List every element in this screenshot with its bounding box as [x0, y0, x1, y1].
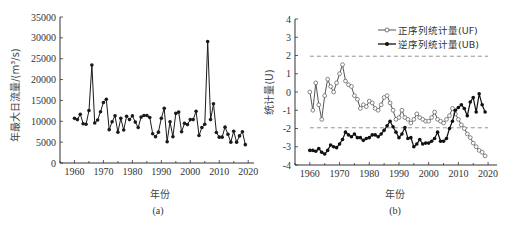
data-point	[203, 122, 207, 126]
data-point	[209, 118, 213, 122]
data-point	[116, 130, 120, 134]
data-point	[329, 85, 333, 89]
data-point	[359, 136, 363, 140]
data-point	[477, 92, 481, 96]
legend-item-uf: 正序列统计量(UF)	[378, 25, 478, 36]
open-circle-icon	[385, 28, 389, 32]
data-point	[235, 140, 239, 144]
data-point	[332, 90, 336, 94]
data-point	[379, 132, 383, 136]
data-point	[397, 136, 401, 140]
data-point	[483, 110, 487, 114]
x-tick-label: 2020	[238, 166, 258, 177]
data-point	[459, 123, 463, 127]
data-point	[177, 110, 181, 114]
y-tick-label: -1	[283, 105, 291, 116]
data-point	[409, 136, 413, 140]
x-tick-label: 2000	[180, 166, 200, 177]
x-axis-label-b: 年份	[385, 188, 405, 200]
data-point	[136, 126, 140, 130]
data-point	[122, 128, 126, 132]
data-point	[400, 132, 404, 136]
x-tick-label: 2020	[478, 168, 498, 179]
data-point	[344, 79, 348, 83]
legend-item-ub: 逆序列统计量(UB)	[378, 39, 479, 50]
data-point	[460, 103, 464, 107]
data-point	[338, 142, 342, 146]
y-tick-label: 20000	[31, 74, 56, 85]
data-point	[160, 117, 164, 121]
x-axis-label-a: 年份	[150, 188, 170, 200]
data-point	[341, 138, 345, 142]
y-tick-label: 4	[286, 14, 291, 25]
x-tick-label: 1980	[122, 166, 142, 177]
data-point	[367, 136, 371, 140]
series-line-ub	[310, 94, 485, 154]
data-point	[326, 149, 330, 153]
data-point	[96, 118, 100, 122]
data-point	[415, 142, 419, 146]
data-point	[385, 124, 389, 128]
data-point	[241, 130, 245, 134]
data-point	[379, 103, 383, 107]
data-point	[385, 94, 389, 98]
data-point	[480, 150, 484, 154]
y-tick-label: 1	[286, 68, 291, 79]
data-point	[376, 135, 380, 139]
x-tick-label: 1970	[93, 166, 113, 177]
data-point	[350, 85, 354, 89]
data-point	[344, 130, 348, 134]
data-point	[110, 120, 114, 124]
x-tick-label: 2000	[419, 168, 439, 179]
data-point	[308, 90, 312, 94]
x-tick-label: 1990	[389, 168, 409, 179]
figure-canvas: 05000100001500020000250003000035000 1960…	[0, 0, 508, 225]
data-point	[412, 145, 416, 149]
data-point	[335, 146, 339, 150]
data-point	[119, 117, 123, 121]
data-point	[180, 130, 184, 134]
y-tick-label: 10000	[31, 116, 56, 127]
y-axis-label-b: 统计量(U)	[263, 69, 275, 114]
data-point	[148, 116, 152, 120]
data-point	[463, 107, 467, 111]
data-point	[382, 129, 386, 133]
data-point	[191, 118, 195, 122]
y-tick-label: 15000	[31, 95, 56, 106]
y-tick-label: 2	[286, 50, 291, 61]
y-tick-label: -3	[283, 141, 291, 152]
y-tick-label: 30000	[31, 32, 56, 43]
data-point	[151, 132, 155, 136]
data-point	[468, 100, 472, 104]
x-tick-label: 1970	[330, 168, 350, 179]
data-point	[311, 108, 315, 112]
data-point	[215, 131, 219, 135]
data-point	[418, 138, 422, 142]
data-point	[133, 120, 137, 124]
data-point	[454, 108, 458, 112]
data-point	[194, 109, 198, 113]
data-point	[391, 108, 395, 112]
figure: 05000100001500020000250003000035000 1960…	[0, 0, 508, 225]
data-point	[427, 119, 431, 123]
y-tick-label: 3	[286, 32, 291, 43]
data-point	[451, 119, 455, 123]
data-point	[154, 135, 158, 139]
data-point	[433, 137, 437, 141]
data-point	[406, 117, 410, 121]
data-point	[102, 101, 106, 105]
data-point	[353, 132, 357, 136]
data-point	[462, 127, 466, 131]
axes-a	[60, 17, 254, 163]
data-point	[338, 72, 342, 76]
data-point	[206, 40, 210, 44]
data-point	[326, 77, 330, 81]
x-tick-label: 2010	[448, 168, 468, 179]
data-point	[430, 139, 434, 143]
data-point	[341, 63, 345, 67]
data-point	[445, 117, 449, 121]
data-point	[465, 132, 469, 136]
data-point	[314, 150, 318, 154]
data-point	[317, 147, 321, 151]
data-point	[436, 130, 440, 134]
